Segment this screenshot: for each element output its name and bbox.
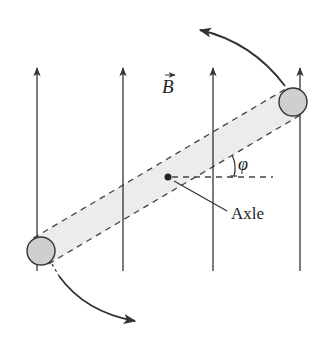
axle-point xyxy=(165,174,172,181)
sphere-upper-right xyxy=(279,88,307,116)
rotation-arrow-lower-icon xyxy=(59,276,135,321)
rotating-rod-diagram: B φ Axle xyxy=(0,0,316,349)
sphere-lower-left xyxy=(27,237,55,265)
angle-label: φ xyxy=(238,154,248,174)
field-label-group: B xyxy=(162,75,175,97)
angle-arc-icon xyxy=(232,155,235,176)
axle-leader-line xyxy=(174,181,227,211)
lower-sphere-dash-tail xyxy=(52,264,59,276)
field-label: B xyxy=(162,76,174,97)
axle-label: Axle xyxy=(231,204,264,223)
